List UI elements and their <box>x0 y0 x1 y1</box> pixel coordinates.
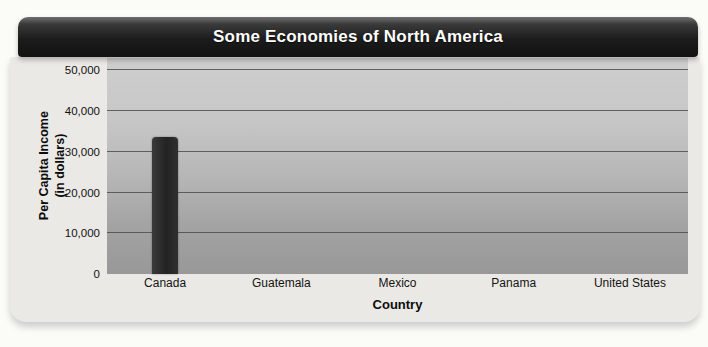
x-axis-tick-labels: CanadaGuatemalaMexicoPanamaUnited States <box>107 276 688 290</box>
chart-title: Some Economies of North America <box>213 27 503 47</box>
bar-slot-mexico <box>339 58 455 274</box>
bar-slot-guatemala <box>223 58 339 274</box>
y-axis-tick-labels: 010,00020,00030,00040,00050,000 <box>30 58 100 274</box>
y-tick-label-20,000: 20,000 <box>65 187 100 199</box>
y-tick-label-40,000: 40,000 <box>65 105 100 117</box>
bar-slot-panama <box>456 58 572 274</box>
x-tick-label-panama: Panama <box>456 276 572 290</box>
x-tick-label-canada: Canada <box>107 276 223 290</box>
y-tick-label-10,000: 10,000 <box>65 227 100 239</box>
bar-canada <box>152 137 178 274</box>
x-tick-label-guatemala: Guatemala <box>223 276 339 290</box>
chart-figure: Some Economies of North America Per Capi… <box>0 0 708 347</box>
chart-title-bar: Some Economies of North America <box>18 17 698 57</box>
bar-slot-canada <box>107 58 223 274</box>
plot-area <box>107 58 688 274</box>
y-tick-label-0: 0 <box>94 268 100 280</box>
bar-slot-united-states <box>572 58 688 274</box>
x-tick-label-mexico: Mexico <box>339 276 455 290</box>
y-tick-label-30,000: 30,000 <box>65 146 100 158</box>
x-tick-label-united-states: United States <box>572 276 688 290</box>
y-tick-label-50,000: 50,000 <box>65 64 100 76</box>
bar-slots <box>107 58 688 274</box>
x-axis-title: Country <box>107 297 688 312</box>
chart-card: Per Capita Income (in dollars) 010,00020… <box>10 57 700 322</box>
